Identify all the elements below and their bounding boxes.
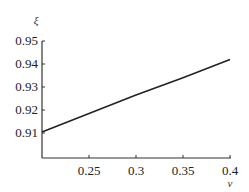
y-axis-title: ξ — [34, 14, 39, 27]
y-tick-label: 0.92 — [15, 102, 38, 117]
line-chart: 0.95 0.94 0.93 0.92 0.91 0.25 0.3 0.35 0… — [0, 0, 249, 192]
y-tick-labels: 0.95 0.94 0.93 0.92 0.91 — [15, 33, 38, 140]
x-tick-label: 0.4 — [222, 163, 239, 178]
x-tick-label: 0.3 — [128, 163, 144, 178]
x-axis-title: ν — [228, 177, 233, 189]
y-tick-label: 0.95 — [15, 33, 38, 48]
y-tick-label: 0.91 — [15, 125, 38, 140]
y-tick-label: 0.93 — [15, 79, 38, 94]
x-tick-labels: 0.25 0.3 0.35 0.4 — [78, 163, 239, 178]
x-tick-label: 0.25 — [78, 163, 101, 178]
y-tick-label: 0.94 — [15, 56, 38, 71]
data-line — [42, 59, 230, 131]
x-tick-label: 0.35 — [172, 163, 195, 178]
